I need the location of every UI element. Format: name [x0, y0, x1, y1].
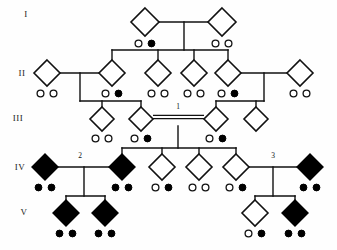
- individual-V-4-filled-diamond[interactable]: [282, 200, 308, 226]
- generation-labels-layer: IIIIIIIVV: [13, 9, 28, 217]
- offspring-marker-II-3-1-open: [148, 90, 155, 97]
- offspring-marker-II-2-1-open: [102, 90, 109, 97]
- offspring-marker-II-5-1-open: [218, 90, 225, 97]
- offspring-marker-III-2-1-open: [131, 135, 138, 142]
- individual-symbols-layer: [32, 8, 323, 226]
- pedigree-chart-canvas: IIIIIIIVV 123: [0, 0, 337, 250]
- generation-label-IV: IV: [15, 162, 26, 172]
- offspring-marker-III-3-1-open: [206, 135, 213, 142]
- offspring-marker-IV-1-2-filled: [48, 184, 55, 191]
- individual-II-3-open-diamond[interactable]: [145, 60, 171, 86]
- individual-III-1-open-diamond[interactable]: [90, 107, 114, 131]
- offspring-marker-II-3-2-open: [161, 90, 168, 97]
- individual-I-1-open-diamond[interactable]: [131, 8, 159, 36]
- individual-III-4-open-diamond[interactable]: [244, 107, 268, 131]
- offspring-marker-III-3-2-filled: [219, 135, 226, 142]
- offspring-marker-IV-3-1-open: [152, 184, 159, 191]
- offspring-marker-II-6-2-open: [303, 90, 310, 97]
- individual-IV-6-filled-diamond[interactable]: [297, 154, 323, 180]
- offspring-marker-I-1-2-filled: [148, 40, 155, 47]
- individual-II-4-open-diamond[interactable]: [181, 60, 207, 86]
- offspring-marker-II-5-2-filled: [231, 90, 238, 97]
- offspring-marker-II-4-1-open: [184, 90, 191, 97]
- offspring-marker-V-4-1-filled: [285, 230, 292, 237]
- individual-IV-5-open-diamond[interactable]: [223, 154, 249, 180]
- offspring-marker-V-1-1-filled: [56, 230, 63, 237]
- mating-labels-layer: 123: [78, 102, 275, 160]
- individual-IV-1-filled-diamond[interactable]: [32, 154, 58, 180]
- offspring-marker-III-1-1-open: [92, 135, 99, 142]
- offspring-marker-V-4-2-filled: [298, 230, 305, 237]
- offspring-marker-IV-5-1-open: [226, 184, 233, 191]
- mating-number-2: 2: [78, 151, 82, 160]
- offspring-marker-V-2-1-filled: [95, 230, 102, 237]
- individual-IV-4-open-diamond[interactable]: [186, 154, 212, 180]
- offspring-marker-II-2-2-filled: [115, 90, 122, 97]
- individual-III-2-open-diamond[interactable]: [129, 107, 153, 131]
- generation-label-V: V: [21, 207, 28, 217]
- offspring-marker-II-6-1-open: [290, 90, 297, 97]
- offspring-marker-IV-3-2-filled: [165, 184, 172, 191]
- offspring-marker-V-1-2-filled: [69, 230, 76, 237]
- pedigree-svg: IIIIIIIVV 123: [0, 0, 337, 250]
- connector-lines-layer: [58, 22, 297, 200]
- offspring-marker-IV-4-1-open: [189, 184, 196, 191]
- offspring-marker-V-3-1-open: [245, 230, 252, 237]
- individual-IV-2-filled-diamond[interactable]: [109, 154, 135, 180]
- mating-number-3: 3: [271, 151, 275, 160]
- individual-III-3-open-diamond[interactable]: [204, 107, 228, 131]
- individual-II-2-open-diamond[interactable]: [99, 60, 125, 86]
- offspring-marker-IV-1-1-filled: [35, 184, 42, 191]
- offspring-marker-II-4-2-open: [197, 90, 204, 97]
- generation-label-II: II: [19, 68, 26, 78]
- offspring-marker-V-2-2-filled: [108, 230, 115, 237]
- mating-number-1: 1: [176, 102, 180, 111]
- offspring-marker-III-2-2-filled: [144, 135, 151, 142]
- offspring-marker-I-2-2-open: [225, 40, 232, 47]
- individual-I-2-open-diamond[interactable]: [208, 8, 236, 36]
- offspring-marker-I-2-1-open: [212, 40, 219, 47]
- offspring-marker-IV-6-2-filled: [313, 184, 320, 191]
- individual-V-2-filled-diamond[interactable]: [92, 200, 118, 226]
- offspring-marker-IV-6-1-filled: [300, 184, 307, 191]
- offspring-marker-II-1-2-open: [50, 90, 57, 97]
- offspring-marker-IV-4-2-open: [202, 184, 209, 191]
- individual-II-1-open-diamond[interactable]: [34, 60, 60, 86]
- individual-IV-3-open-diamond[interactable]: [149, 154, 175, 180]
- individual-V-3-open-diamond[interactable]: [242, 200, 268, 226]
- generation-label-III: III: [13, 113, 24, 123]
- offspring-marker-I-1-1-open: [135, 40, 142, 47]
- offspring-marker-III-1-2-open: [105, 135, 112, 142]
- offspring-marker-V-3-2-filled: [258, 230, 265, 237]
- individual-II-6-open-diamond[interactable]: [287, 60, 313, 86]
- offspring-marker-IV-5-2-filled: [239, 184, 246, 191]
- offspring-marker-IV-2-2-filled: [125, 184, 132, 191]
- individual-V-1-filled-diamond[interactable]: [53, 200, 79, 226]
- offspring-marker-IV-2-1-filled: [112, 184, 119, 191]
- generation-label-I: I: [24, 9, 28, 19]
- offspring-marker-II-1-1-open: [37, 90, 44, 97]
- individual-II-5-open-diamond[interactable]: [215, 60, 241, 86]
